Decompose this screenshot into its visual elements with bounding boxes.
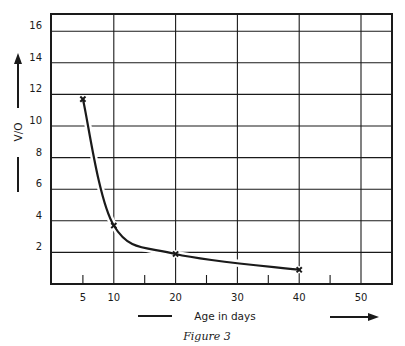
- y-axis-tick-labels: 246810121416: [29, 20, 42, 252]
- figure-caption: Figure 3: [182, 330, 231, 343]
- y-tick-label: 6: [36, 178, 42, 189]
- x-axis-tick-labels: 51020304050: [80, 292, 368, 303]
- curve-halo: [83, 99, 299, 270]
- y-tick-label: 16: [29, 20, 42, 31]
- y-tick-label: 14: [29, 52, 42, 63]
- x-tick-label: 40: [293, 292, 306, 303]
- plot-frame: [51, 14, 392, 284]
- x-axis-ticks: [83, 275, 330, 284]
- x-axis-title-group: Age in days: [138, 310, 379, 322]
- y-tick-label: 4: [36, 210, 42, 221]
- chart: 51020304050 246810121416 V/O Age in days…: [0, 0, 405, 346]
- y-tick-label: 8: [36, 147, 42, 158]
- y-tick-label: 12: [29, 83, 42, 94]
- data-series-curve: [83, 99, 299, 270]
- x-tick-label: 30: [231, 292, 244, 303]
- data-curve: [83, 99, 299, 270]
- y-axis-title-group: V/O: [12, 53, 24, 192]
- y-axis-arrow-up-icon: [14, 53, 22, 64]
- y-tick-label: 10: [29, 115, 42, 126]
- x-axis-arrow-right-icon: [368, 313, 379, 321]
- x-tick-label: 10: [107, 292, 120, 303]
- x-tick-label: 50: [355, 292, 368, 303]
- x-tick-label: 20: [169, 292, 182, 303]
- y-tick-label: 2: [36, 241, 42, 252]
- gridlines: [51, 14, 392, 284]
- x-axis-title: Age in days: [194, 310, 255, 322]
- y-axis-title: V/O: [12, 123, 24, 142]
- x-tick-label: 5: [80, 292, 86, 303]
